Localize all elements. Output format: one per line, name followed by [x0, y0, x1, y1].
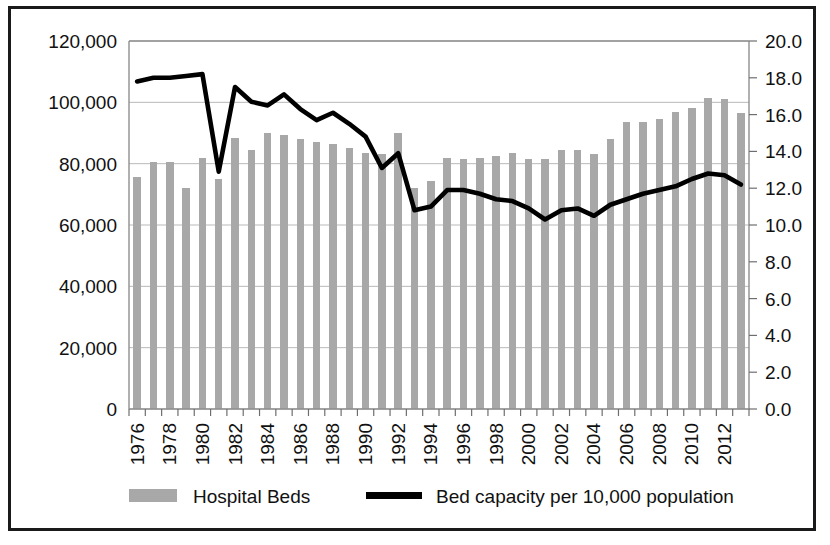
bar — [721, 99, 729, 409]
bar — [297, 139, 305, 409]
x-axis-tick-labels: 1976197819801982198419861988199019921994… — [127, 423, 735, 466]
legend-swatch-hospital-beds — [129, 489, 177, 502]
x-axis-tick-label: 1998 — [486, 423, 507, 465]
left-axis-tick-label: 60,000 — [59, 215, 117, 236]
bar — [492, 156, 500, 409]
bar — [231, 138, 239, 409]
left-axis-tick-label: 80,000 — [59, 154, 117, 175]
bar — [346, 148, 354, 409]
bar — [607, 139, 615, 409]
legend-swatch-bed-capacity — [366, 492, 422, 499]
chart-canvas: 020,00040,00060,00080,000100,000120,000 … — [11, 9, 813, 528]
right-axis-tick-label: 4.0 — [765, 325, 791, 346]
right-axis-tick-label: 0.0 — [765, 399, 791, 420]
bar — [166, 162, 174, 409]
x-axis-tick-label: 1980 — [192, 423, 213, 465]
bar — [280, 135, 288, 409]
x-axis-tick-label: 2010 — [681, 423, 702, 465]
chart-legend: Hospital Beds Bed capacity per 10,000 po… — [11, 471, 813, 517]
bar — [215, 179, 223, 409]
bar — [264, 133, 272, 409]
bar — [394, 133, 402, 409]
right-axis-tick-label: 20.0 — [765, 31, 802, 52]
bar — [590, 154, 598, 409]
x-axis-tick-label: 2000 — [518, 423, 539, 465]
bar — [639, 122, 647, 409]
figure-frame: 020,00040,00060,00080,000100,000120,000 … — [8, 6, 816, 531]
bar — [672, 112, 680, 409]
bar — [313, 142, 321, 409]
x-axis-tick-label: 1976 — [127, 423, 148, 465]
bar — [509, 153, 517, 409]
left-axis-tick-label: 100,000 — [48, 92, 117, 113]
left-axis-tick-label: 120,000 — [48, 31, 117, 52]
x-axis-tick-label: 1978 — [159, 423, 180, 465]
bar — [329, 144, 337, 409]
bar — [558, 150, 566, 409]
data-line — [137, 74, 741, 219]
x-axis-tick-label: 1994 — [420, 423, 441, 466]
x-axis-tick-label: 1988 — [322, 423, 343, 465]
left-axis-tick-label: 40,000 — [59, 276, 117, 297]
bar — [525, 159, 533, 409]
x-axis-tick-label: 1992 — [388, 423, 409, 465]
bar — [199, 158, 207, 409]
legend-label-bed-capacity: Bed capacity per 10,000 population — [436, 486, 734, 507]
x-axis-tickmarks — [129, 409, 749, 416]
right-axis-tick-label: 12.0 — [765, 178, 802, 199]
left-axis-tick-labels: 020,00040,00060,00080,000100,000120,000 — [48, 31, 117, 420]
right-axis-tick-label: 14.0 — [765, 141, 802, 162]
x-axis-tick-label: 1990 — [355, 423, 376, 465]
bar — [411, 188, 419, 409]
bar — [574, 150, 582, 409]
right-axis-tick-label: 10.0 — [765, 215, 802, 236]
x-axis-tick-label: 1984 — [257, 423, 278, 466]
line-series-bed-capacity — [137, 74, 741, 219]
bar — [150, 162, 158, 409]
left-axis-tick-label: 0 — [106, 399, 117, 420]
right-axis-tick-label: 6.0 — [765, 289, 791, 310]
x-axis-tick-label: 1986 — [290, 423, 311, 465]
right-axis-tick-label: 2.0 — [765, 362, 791, 383]
bar — [378, 154, 386, 409]
right-axis-tick-label: 18.0 — [765, 68, 802, 89]
bar — [133, 177, 141, 409]
x-axis-tick-label: 2006 — [616, 423, 637, 465]
bar — [362, 153, 370, 409]
x-axis-tick-label: 2004 — [583, 423, 604, 466]
left-axis-tick-label: 20,000 — [59, 338, 117, 359]
x-axis-tick-label: 1996 — [453, 423, 474, 465]
bar — [737, 113, 745, 409]
right-axis-tick-label: 8.0 — [765, 252, 791, 273]
bar — [704, 98, 712, 409]
x-axis-tick-label: 1982 — [225, 423, 246, 465]
right-axis-tick-labels: 0.02.04.06.08.010.012.014.016.018.020.0 — [749, 31, 802, 420]
bar — [248, 150, 256, 409]
x-axis-tick-label: 2012 — [714, 423, 735, 465]
bar — [688, 108, 696, 409]
right-axis-tick-label: 16.0 — [765, 105, 802, 126]
bar — [427, 181, 435, 409]
bar — [623, 122, 631, 409]
bar — [182, 188, 190, 409]
bar — [656, 119, 664, 409]
bar — [541, 159, 549, 409]
x-axis-tick-label: 2008 — [649, 423, 670, 465]
bar — [460, 159, 468, 409]
x-axis-tick-label: 2002 — [551, 423, 572, 465]
legend-label-hospital-beds: Hospital Beds — [193, 486, 310, 507]
